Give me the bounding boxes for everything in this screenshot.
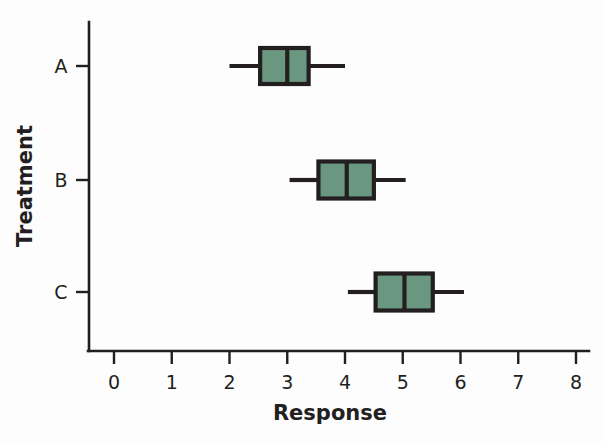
x-tick-label-6: 6 — [454, 371, 466, 393]
x-axis-title: Response — [273, 401, 387, 425]
x-tick-label-0: 0 — [108, 371, 120, 393]
y-axis-title: Treatment — [13, 125, 37, 247]
x-tick-label-3: 3 — [281, 371, 293, 393]
y-tick-label-c: C — [54, 281, 67, 303]
y-tick-label-b: B — [54, 169, 67, 191]
x-tick-label-2: 2 — [223, 371, 235, 393]
y-tick-label-a: A — [55, 55, 68, 77]
x-tick-label-4: 4 — [339, 371, 351, 393]
boxplot-chart: 0 1 2 3 4 5 6 7 8 Response A B C Treatme… — [0, 0, 606, 442]
x-tick-label-7: 7 — [512, 371, 524, 393]
x-tick-label-1: 1 — [166, 371, 178, 393]
boxplot-canvas: 0 1 2 3 4 5 6 7 8 Response A B C Treatme… — [0, 0, 606, 442]
box-a — [260, 48, 309, 84]
x-tick-label-8: 8 — [570, 371, 582, 393]
x-tick-label-5: 5 — [397, 371, 409, 393]
